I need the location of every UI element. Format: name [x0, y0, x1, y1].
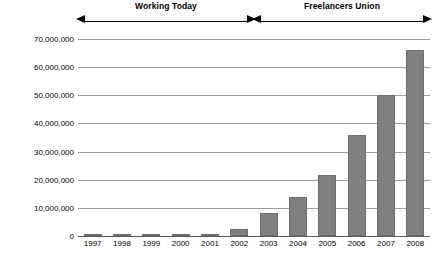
bar-2004 [289, 197, 307, 236]
y-axis-tick-label: 70,000,000 [34, 35, 74, 44]
x-axis-tick-label: 2006 [342, 239, 371, 248]
bar-slot [254, 39, 283, 236]
y-axis-tick-label: 30,000,000 [34, 147, 74, 156]
x-axis-tick-labels: 1997199819992000200120022003200420052006… [78, 239, 430, 248]
bar-slot [401, 39, 430, 236]
x-axis-line [78, 236, 430, 237]
bar-2006 [348, 135, 366, 236]
bar-slot [371, 39, 400, 236]
y-axis-tick-label: 50,000,000 [34, 91, 74, 100]
y-axis-tick-label: 0 [70, 232, 74, 241]
bar-2005 [318, 175, 336, 236]
x-axis-tick-label: 1999 [137, 239, 166, 248]
plot-area-wrapper: Revenue ($) 010,000,00020,000,00030,000,… [0, 0, 445, 268]
bar-slot [107, 39, 136, 236]
chart-page: Working Today Freelancers Union Revenue … [0, 0, 445, 268]
x-axis-tick-label: 2008 [401, 239, 430, 248]
bar-2003 [260, 213, 278, 236]
x-axis-tick-label: 2007 [371, 239, 400, 248]
y-axis-tick-label: 60,000,000 [34, 63, 74, 72]
y-axis-tick-label: 40,000,000 [34, 119, 74, 128]
bar-slot [283, 39, 312, 236]
bar-slot [225, 39, 254, 236]
bar-slot [342, 39, 371, 236]
y-axis-tick-label: 10,000,000 [34, 203, 74, 212]
bar-slot [78, 39, 107, 236]
y-axis-tick-label: 20,000,000 [34, 175, 74, 184]
x-axis-tick-label: 2004 [283, 239, 312, 248]
x-axis-tick-label: 2001 [195, 239, 224, 248]
bar-2008 [406, 50, 424, 236]
bar-slot [137, 39, 166, 236]
bar-slot [166, 39, 195, 236]
x-axis-tick-label: 2002 [225, 239, 254, 248]
plot-area [78, 39, 430, 236]
x-axis-tick-label: 2005 [313, 239, 342, 248]
y-axis-tick-labels: 010,000,00020,000,00030,000,00040,000,00… [12, 0, 74, 268]
x-axis-tick-label: 2000 [166, 239, 195, 248]
bar-2007 [377, 95, 395, 236]
bar-series [78, 39, 430, 236]
bar-slot [195, 39, 224, 236]
x-axis-tick-label: 2003 [254, 239, 283, 248]
x-axis-tick-label: 1998 [107, 239, 136, 248]
bar-slot [313, 39, 342, 236]
x-axis-tick-label: 1997 [78, 239, 107, 248]
